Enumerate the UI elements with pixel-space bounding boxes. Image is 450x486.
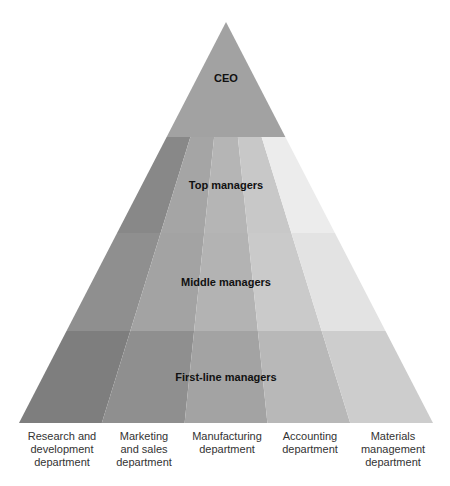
dept-line: development bbox=[17, 443, 107, 456]
dept-line: department bbox=[265, 443, 355, 456]
dept-line: Marketing bbox=[99, 430, 189, 443]
dept-label-marketing: Marketing and sales department bbox=[99, 430, 189, 469]
level-label-middle-managers: Middle managers bbox=[181, 276, 271, 288]
dept-line: department bbox=[182, 443, 272, 456]
dept-line: department bbox=[348, 456, 438, 469]
level-label-ceo: CEO bbox=[214, 72, 238, 84]
dept-line: Manufacturing bbox=[182, 430, 272, 443]
dept-line: Accounting bbox=[265, 430, 355, 443]
dept-line: management bbox=[348, 443, 438, 456]
dept-label-research: Research and development department bbox=[17, 430, 107, 469]
dept-line: department bbox=[99, 456, 189, 469]
level-label-first-line-managers: First-line managers bbox=[175, 371, 276, 383]
dept-line: department bbox=[17, 456, 107, 469]
level-label-top-managers: Top managers bbox=[189, 179, 263, 191]
dept-label-manufacturing: Manufacturing department bbox=[182, 430, 272, 456]
dept-line: and sales bbox=[99, 443, 189, 456]
dept-line: Materials bbox=[348, 430, 438, 443]
dept-label-accounting: Accounting department bbox=[265, 430, 355, 456]
dept-line: Research and bbox=[17, 430, 107, 443]
dept-label-materials: Materials management department bbox=[348, 430, 438, 469]
org-pyramid bbox=[0, 0, 450, 430]
